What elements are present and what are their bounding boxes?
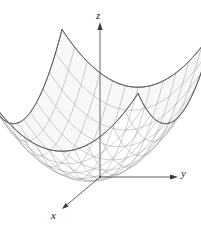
- axis-label-y: y: [181, 168, 186, 179]
- axis-label-z: z: [96, 10, 100, 21]
- paraboloid-figure: z y x: [0, 0, 201, 233]
- axis-label-x: x: [51, 210, 56, 221]
- surface-wireframe: [0, 0, 201, 233]
